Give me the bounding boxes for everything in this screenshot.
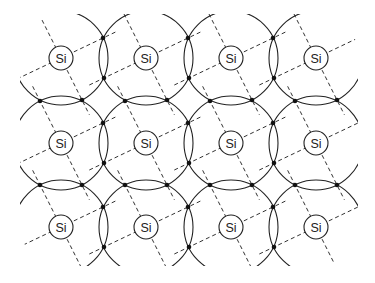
atom-label: Si <box>225 221 236 235</box>
silicon-atom: Si <box>304 215 328 239</box>
electron-dot <box>250 98 255 103</box>
electron-dot <box>102 245 107 250</box>
atom-label: Si <box>55 52 66 66</box>
silicon-atom: Si <box>219 215 243 239</box>
electron-dot <box>208 183 213 188</box>
electron-dot <box>186 121 191 126</box>
silicon-atom: Si <box>304 131 328 155</box>
electron-dot <box>165 98 170 103</box>
electron-dot <box>293 183 298 188</box>
silicon-lattice-diagram: SiSiSiSiSiSiSiSiSiSiSiSi Silicon crystal… <box>0 0 375 283</box>
atom-label: Si <box>310 221 321 235</box>
electron-dot <box>80 183 85 188</box>
silicon-atom: Si <box>304 46 328 70</box>
electron-dot <box>272 245 277 250</box>
electron-dot <box>102 76 107 81</box>
electron-dot <box>250 183 255 188</box>
electron-dot <box>272 161 277 166</box>
silicon-atom: Si <box>134 215 158 239</box>
atom-label: Si <box>140 137 151 151</box>
electron-dot <box>271 121 276 126</box>
silicon-atom: Si <box>134 46 158 70</box>
electron-dot <box>271 205 276 210</box>
electron-dot <box>335 98 340 103</box>
electron-dot <box>272 76 277 81</box>
silicon-atom: Si <box>134 131 158 155</box>
electron-dot <box>165 183 170 188</box>
electron-dot <box>102 161 107 166</box>
silicon-atom: Si <box>49 46 73 70</box>
electron-dot <box>271 36 276 41</box>
atom-label: Si <box>55 221 66 235</box>
lattice-svg: SiSiSiSiSiSiSiSiSiSiSiSi <box>0 0 375 283</box>
atom-label: Si <box>225 52 236 66</box>
atom-label: Si <box>55 137 66 151</box>
silicon-atom: Si <box>219 46 243 70</box>
electron-dot <box>38 183 43 188</box>
electron-dot <box>101 205 106 210</box>
electron-dot <box>186 36 191 41</box>
electron-dot <box>38 99 43 104</box>
atom-label: Si <box>310 137 321 151</box>
electron-dot <box>293 99 298 104</box>
shared-electrons <box>38 36 340 250</box>
electron-dot <box>187 245 192 250</box>
silicon-atom: Si <box>49 131 73 155</box>
electron-dot <box>335 183 340 188</box>
silicon-atoms: SiSiSiSiSiSiSiSiSiSiSiSi <box>49 46 328 239</box>
electron-dot <box>186 205 191 210</box>
atom-label: Si <box>140 221 151 235</box>
electron-dot <box>187 76 192 81</box>
electron-dot <box>101 36 106 41</box>
atom-label: Si <box>140 52 151 66</box>
silicon-atom: Si <box>219 131 243 155</box>
electron-dot <box>208 99 213 104</box>
electron-dot <box>123 99 128 104</box>
electron-dot <box>80 98 85 103</box>
electron-dot <box>123 183 128 188</box>
atom-label: Si <box>225 137 236 151</box>
silicon-atom: Si <box>49 215 73 239</box>
atom-label: Si <box>310 52 321 66</box>
electron-dot <box>187 161 192 166</box>
electron-dot <box>101 121 106 126</box>
